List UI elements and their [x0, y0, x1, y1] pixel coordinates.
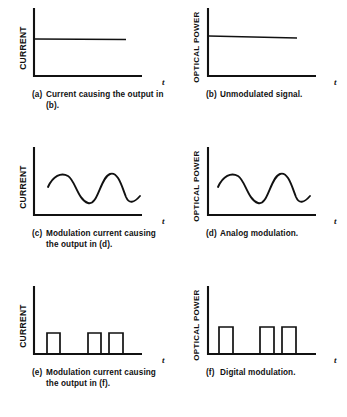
- waveform-svg-a: [30, 6, 158, 86]
- x-axis-label-b: t: [334, 77, 337, 87]
- caption-tag-f: (f): [206, 368, 220, 379]
- pulse-1: [47, 333, 60, 354]
- axes-a: [34, 8, 142, 76]
- y-axis-label-optical-power: OPTICAL POWER: [190, 4, 204, 90]
- axes-b: [208, 8, 316, 76]
- pulse-2: [88, 333, 101, 354]
- caption-text-e: Modulation current causing the output in…: [46, 368, 164, 389]
- plot-area-b: [204, 6, 332, 86]
- axes-d: [208, 147, 316, 215]
- caption-d: (d)Analog modulation.: [206, 229, 346, 240]
- x-axis-label-e: t: [162, 355, 165, 365]
- panel-b: OPTICAL POWER t (b)Unmodulated signal.: [174, 0, 347, 139]
- panel-f: OPTICAL POWER t (f)Digital modulation.: [174, 278, 347, 417]
- waveform-svg-f: [204, 284, 332, 364]
- caption-a: (a)Current causing the output in (b).: [32, 90, 172, 111]
- panel-e: CURRENT t (e)Modulation current causing …: [0, 278, 173, 417]
- waveform-svg-e: [30, 284, 158, 364]
- caption-tag-d: (d): [206, 229, 220, 240]
- caption-tag-a: (a): [32, 90, 46, 101]
- pulse-3: [282, 327, 296, 354]
- panel-d: OPTICAL POWER t (d)Analog modulation.: [174, 139, 347, 278]
- modulation-waveform-figure: CURRENT t (a)Current causing the output …: [0, 0, 347, 417]
- y-axis-label-current: CURRENT: [16, 147, 30, 227]
- caption-c: (c)Modulation current causing the output…: [32, 229, 172, 250]
- x-axis-label-c: t: [162, 216, 165, 226]
- pulse-2: [260, 327, 274, 354]
- plot-area-a: [30, 6, 158, 86]
- plot-area-c: [30, 145, 158, 225]
- caption-text-a: Current causing the output in (b).: [46, 90, 164, 111]
- waveform-svg-c: [30, 145, 158, 225]
- caption-f: (f)Digital modulation.: [206, 368, 346, 379]
- caption-text-c: Modulation current causing the output in…: [46, 229, 164, 250]
- caption-b: (b)Unmodulated signal.: [206, 90, 346, 101]
- axes-c: [34, 147, 142, 215]
- y-axis-label-current: CURRENT: [16, 286, 30, 366]
- caption-e: (e)Modulation current causing the output…: [32, 368, 172, 389]
- x-axis-label-a: t: [162, 77, 165, 87]
- axes-f: [208, 286, 316, 354]
- waveform-svg-b: [204, 6, 332, 86]
- waveform-svg-d: [204, 145, 332, 225]
- plot-area-d: [204, 145, 332, 225]
- y-axis-label-optical-power: OPTICAL POWER: [190, 282, 204, 368]
- trace-constant-current: [35, 39, 126, 40]
- y-axis-label-current: CURRENT: [16, 8, 30, 88]
- caption-tag-b: (b): [206, 90, 220, 101]
- trace-sine-current: [48, 174, 140, 204]
- pulse-1: [219, 327, 233, 354]
- plot-area-f: [204, 284, 332, 364]
- panel-a: CURRENT t (a)Current causing the output …: [0, 0, 173, 139]
- caption-text-d: Analog modulation.: [220, 229, 338, 240]
- y-axis-label-optical-power: OPTICAL POWER: [190, 143, 204, 229]
- pulse-3: [109, 333, 123, 354]
- trace-sine-power: [218, 174, 310, 204]
- caption-text-b: Unmodulated signal.: [220, 90, 338, 101]
- plot-area-e: [30, 284, 158, 364]
- caption-tag-c: (c): [32, 229, 46, 240]
- trace-constant-power: [209, 36, 297, 38]
- caption-text-f: Digital modulation.: [220, 368, 338, 379]
- panel-c: CURRENT t (c)Modulation current causing …: [0, 139, 173, 278]
- x-axis-label-d: t: [334, 216, 337, 226]
- x-axis-label-f: t: [334, 355, 337, 365]
- caption-tag-e: (e): [32, 368, 46, 379]
